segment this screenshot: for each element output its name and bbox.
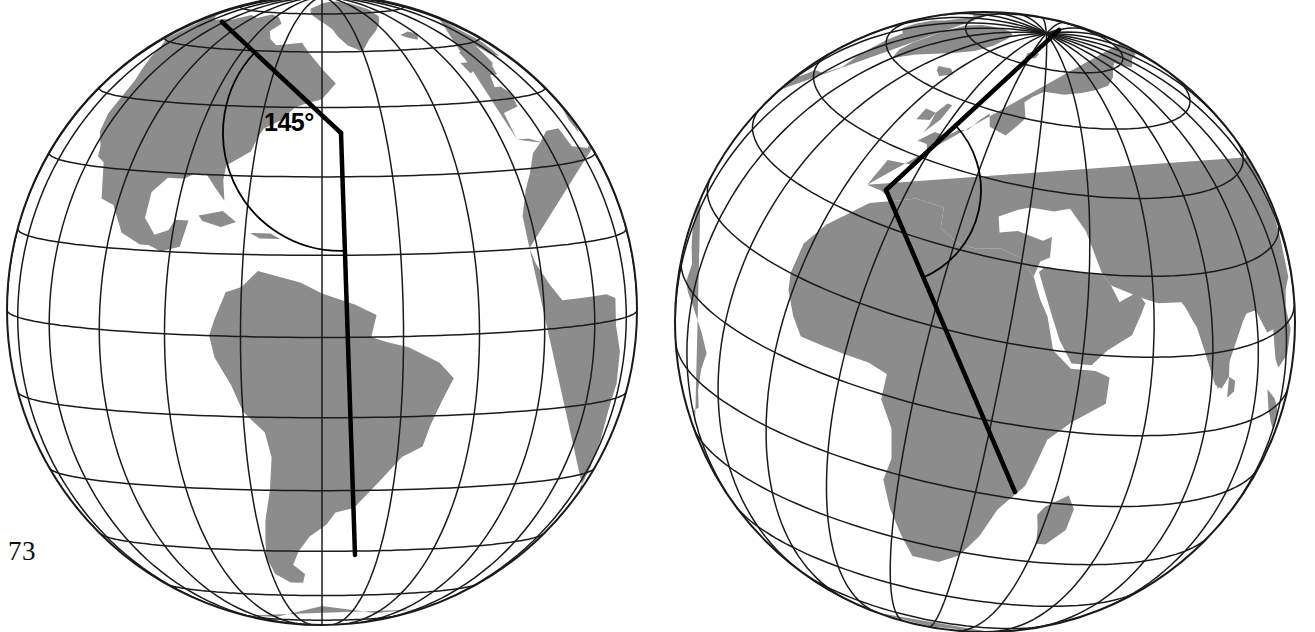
figure-page: 145° 73 120° 74 (0, 0, 1315, 632)
globe-right-svg (658, 0, 1315, 632)
angle-label-left: 145° (264, 108, 314, 137)
figure-number-left: 73 (8, 536, 36, 567)
globe-panel-left: 145° 73 (0, 0, 657, 632)
globe-left-svg (0, 0, 657, 632)
globe-panel-right: 120° 74 (658, 0, 1315, 632)
